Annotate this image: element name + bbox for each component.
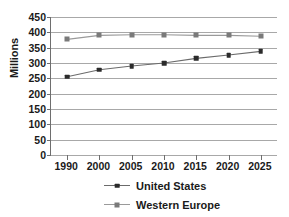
data-point-united-states-1990 xyxy=(65,75,70,80)
plot-area xyxy=(50,17,277,156)
y-tick-label: 300 xyxy=(16,58,46,69)
series-lines xyxy=(51,17,277,155)
data-point-western-europe-2025 xyxy=(258,34,263,39)
data-point-united-states-2000 xyxy=(97,67,102,72)
x-tick-label: 2025 xyxy=(240,160,280,172)
legend-label-united-states: United States xyxy=(136,180,206,192)
y-tick-label: 200 xyxy=(16,88,46,99)
legend-item-united-states[interactable]: United States xyxy=(0,176,289,195)
data-point-western-europe-2000 xyxy=(97,33,102,38)
legend-item-western-europe[interactable]: Western Europe xyxy=(0,195,289,214)
data-point-western-europe-2005 xyxy=(129,32,134,37)
legend-swatch-western-europe xyxy=(104,200,130,210)
legend-swatch-united-states xyxy=(104,181,130,191)
data-series-layer xyxy=(51,17,277,155)
square-marker-icon xyxy=(115,202,120,207)
y-tick-label: 400 xyxy=(16,27,46,38)
chart-legend: United States Western Europe xyxy=(0,176,289,214)
data-point-united-states-2025 xyxy=(259,49,264,54)
data-point-united-states-2020 xyxy=(226,53,231,58)
data-point-western-europe-2020 xyxy=(226,33,231,38)
y-tick-label: 450 xyxy=(16,12,46,23)
diamond-marker-icon xyxy=(115,183,120,188)
data-point-united-states-2005 xyxy=(129,64,134,69)
data-point-western-europe-2010 xyxy=(162,32,167,37)
y-tick-label: 150 xyxy=(16,104,46,115)
data-point-united-states-2015 xyxy=(194,56,199,61)
y-tick-label: 50 xyxy=(16,134,46,145)
data-point-western-europe-2015 xyxy=(194,33,199,38)
y-tick-label: 0 xyxy=(16,150,46,161)
data-point-united-states-2010 xyxy=(162,61,167,66)
line-chart: Millions 450400350300250200150100500 199… xyxy=(0,0,289,217)
y-tick-label: 250 xyxy=(16,73,46,84)
y-axis-tick-labels: 450400350300250200150100500 xyxy=(16,11,46,155)
y-tick-label: 100 xyxy=(16,119,46,130)
y-tick-label: 350 xyxy=(16,42,46,53)
legend-label-western-europe: Western Europe xyxy=(136,199,220,211)
x-axis-tick-labels: 1990200020052010201520202025 xyxy=(50,160,276,174)
y-tick-mark xyxy=(47,155,51,156)
data-point-western-europe-1990 xyxy=(65,37,70,42)
